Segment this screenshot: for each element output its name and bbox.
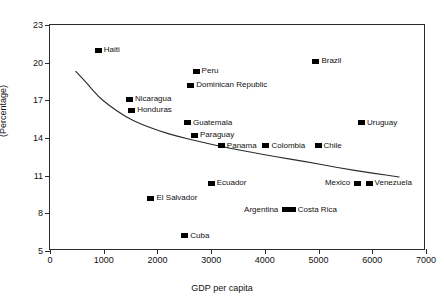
data-point-label: Mexico: [325, 179, 350, 187]
data-point-label: Honduras: [137, 106, 172, 114]
x-tick: [265, 249, 266, 254]
data-point-marker: [358, 120, 365, 125]
x-tick-label: 4000: [255, 256, 275, 265]
data-point-marker: [191, 133, 198, 138]
data-point-label: Haiti: [104, 46, 120, 54]
data-point-marker: [193, 69, 200, 74]
trend-curve: [50, 25, 426, 251]
x-tick-label: 2000: [147, 256, 167, 265]
data-point-marker: [95, 48, 102, 53]
x-tick: [157, 249, 158, 254]
x-tick: [426, 249, 427, 254]
data-point-marker: [366, 181, 373, 186]
x-tick-label: 5000: [309, 256, 329, 265]
y-tick: [45, 63, 50, 64]
y-tick-label: 5: [38, 247, 43, 256]
data-point-marker: [126, 97, 133, 102]
x-tick-label: 7000: [416, 256, 436, 265]
x-tick: [319, 249, 320, 254]
data-point-marker: [354, 181, 361, 186]
data-point-label: Venezuela: [375, 179, 412, 187]
data-point-label: El Salvador: [156, 194, 197, 202]
data-point-label: Panama: [227, 142, 257, 150]
data-point-label: Peru: [202, 67, 219, 75]
data-point-marker: [147, 196, 154, 201]
x-tick: [372, 249, 373, 254]
data-point-label: Costa Rica: [298, 206, 337, 214]
data-point-label: Cuba: [190, 232, 209, 240]
data-point-marker: [315, 143, 322, 148]
y-tick-label: 23: [33, 21, 43, 30]
data-point-label: Dominican Republic: [196, 81, 267, 89]
x-tick: [211, 249, 212, 254]
y-tick-label: 14: [33, 134, 43, 143]
data-point-label: Guatemala: [193, 119, 232, 127]
y-tick-label: 17: [33, 96, 43, 105]
y-tick: [45, 100, 50, 101]
y-tick: [45, 25, 50, 26]
x-axis-label: GDP per capita: [0, 283, 444, 293]
y-tick: [45, 138, 50, 139]
plot-area: 5811141720230100020003000400050006000700…: [49, 24, 425, 250]
x-tick: [50, 249, 51, 254]
y-axis-label: (Percentage): [0, 85, 8, 137]
data-point-marker: [128, 108, 135, 113]
data-point-marker: [184, 120, 191, 125]
chart-figure: 5811141720230100020003000400050006000700…: [0, 0, 444, 303]
data-point-marker: [187, 83, 194, 88]
data-point-label: Colombia: [271, 142, 305, 150]
top-caption: [8, 0, 308, 7]
data-point-label: Ecuador: [217, 179, 247, 187]
x-tick: [104, 249, 105, 254]
data-point-label: Chile: [324, 142, 342, 150]
y-tick-label: 11: [34, 172, 43, 181]
y-tick-label: 8: [38, 209, 43, 218]
data-point-label: Paraguay: [200, 131, 234, 139]
y-tick-label: 20: [33, 59, 43, 68]
data-point-marker: [218, 143, 225, 148]
data-point-marker: [262, 143, 269, 148]
data-point-label: Brazil: [321, 57, 341, 65]
x-tick-label: 1000: [94, 256, 114, 265]
y-tick: [45, 176, 50, 177]
data-point-marker: [312, 59, 319, 64]
data-point-marker: [289, 207, 296, 212]
y-tick: [45, 213, 50, 214]
data-point-label: Uruguay: [367, 119, 397, 127]
data-point-label: Nicaragua: [135, 95, 171, 103]
x-tick-label: 0: [47, 256, 52, 265]
data-point-marker: [181, 233, 188, 238]
x-tick-label: 3000: [201, 256, 221, 265]
x-tick-label: 6000: [362, 256, 382, 265]
data-point-marker: [208, 181, 215, 186]
data-point-label: Argentina: [244, 206, 278, 214]
